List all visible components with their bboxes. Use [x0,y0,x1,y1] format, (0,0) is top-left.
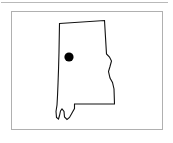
figure-frame [11,11,163,130]
city-marker-dot [64,52,73,61]
figure-page [0,0,173,143]
top-horizontal-rule [1,2,168,3]
alabama-state-outline [56,21,115,120]
state-outline-map [12,12,162,129]
